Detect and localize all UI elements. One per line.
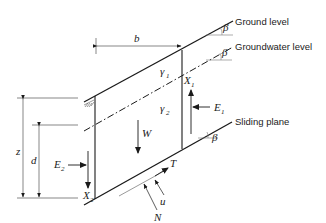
- svg-text:N: N: [153, 211, 162, 223]
- svg-text:2: 2: [61, 165, 65, 173]
- groundwater-level-line: [84, 47, 233, 131]
- t-force: T: [119, 157, 177, 196]
- gamma1-label: γ 1: [160, 65, 170, 80]
- d-label: d: [31, 154, 37, 166]
- ground-level-label: Ground level: [235, 16, 289, 27]
- svg-text:u: u: [160, 195, 166, 207]
- svg-text:1: 1: [221, 108, 225, 116]
- svg-text:β: β: [211, 131, 218, 143]
- sliding-plane-line: [84, 122, 232, 205]
- e1-force: E 1: [193, 101, 225, 116]
- svg-text:β: β: [221, 46, 228, 58]
- slope-diagram: b β β β Ground level Groundwater level S…: [0, 0, 326, 223]
- svg-text:β: β: [222, 21, 229, 33]
- svg-text:1: 1: [166, 72, 170, 80]
- beta-angle-groundwater: β: [206, 46, 232, 60]
- groundwater-level-label: Groundwater level: [235, 41, 312, 52]
- sliding-plane-label: Sliding plane: [235, 116, 289, 127]
- svg-text:W: W: [142, 127, 152, 139]
- ground-level-line: [84, 21, 233, 102]
- z-label: z: [15, 145, 21, 157]
- svg-text:E: E: [213, 101, 221, 113]
- x2-force: X 2: [82, 151, 94, 204]
- svg-text:1: 1: [191, 81, 195, 89]
- svg-text:2: 2: [166, 109, 170, 117]
- w-force: W: [138, 120, 152, 153]
- svg-text:2: 2: [90, 196, 94, 204]
- svg-text:γ: γ: [160, 102, 165, 114]
- x1-force: X 1: [183, 74, 195, 134]
- svg-text:T: T: [170, 157, 177, 169]
- b-label: b: [134, 32, 140, 44]
- svg-text:γ: γ: [160, 65, 165, 77]
- beta-angle-sliding: β: [198, 131, 218, 143]
- u-pressure: u: [155, 180, 166, 207]
- svg-text:E: E: [53, 158, 61, 170]
- gamma2-label: γ 2: [160, 102, 170, 117]
- e2-force: E 2: [53, 158, 86, 173]
